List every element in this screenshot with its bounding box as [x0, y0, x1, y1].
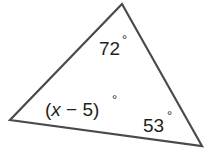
- degree-symbol: °: [167, 108, 172, 123]
- angle-label-left: (x − 5) °: [45, 92, 117, 120]
- degree-symbol: °: [122, 32, 127, 47]
- expression-rest: − 5): [61, 99, 100, 120]
- angle-label-right: 53 °: [143, 108, 172, 136]
- angle-right-value: 53: [143, 115, 164, 136]
- angle-label-top: 72 °: [99, 32, 127, 59]
- degree-symbol: °: [112, 92, 117, 107]
- triangle-diagram: 72 ° (x − 5) ° 53 °: [0, 0, 205, 162]
- triangle: [10, 4, 202, 146]
- angle-left-expression: (x − 5): [45, 99, 99, 120]
- angle-top-value: 72: [99, 38, 120, 59]
